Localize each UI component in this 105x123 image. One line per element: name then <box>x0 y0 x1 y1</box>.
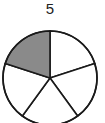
fraction-circle <box>0 0 105 123</box>
